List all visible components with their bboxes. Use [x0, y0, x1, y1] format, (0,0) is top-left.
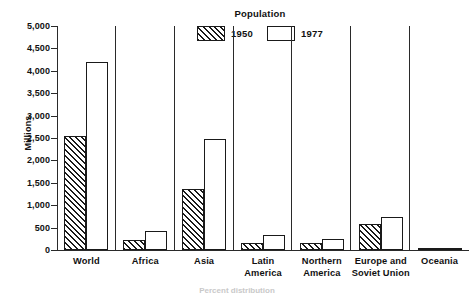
category-label: Latin America [234, 256, 293, 279]
bar-1977 [322, 239, 344, 250]
plot-area [57, 26, 469, 250]
y-tick-label: 5,000 [0, 21, 50, 31]
y-tick-label: 1,500 [0, 178, 50, 188]
y-tick-label: 1,000 [0, 200, 50, 210]
bar-1950 [182, 189, 204, 250]
bar-1977 [381, 217, 403, 250]
bar-group [292, 26, 351, 250]
bar-1977 [440, 248, 462, 250]
bar-1977 [263, 235, 285, 250]
population-bar-chart: Population 1950 1977 Millions 5,0004,500… [0, 0, 474, 297]
bar-1977 [145, 231, 167, 250]
category-label: Africa [116, 256, 175, 268]
bar-group [410, 26, 469, 250]
category-label: Oceania [410, 256, 469, 268]
bar-group [351, 26, 410, 250]
bar-group [57, 26, 116, 250]
category-label: World [57, 256, 116, 268]
bar-group [234, 26, 293, 250]
y-tick-label: 4,000 [0, 66, 50, 76]
category-label: Asia [175, 256, 234, 268]
y-tick-label: 0 [0, 245, 50, 255]
bar-group [116, 26, 175, 250]
y-tick-label: 3,000 [0, 111, 50, 121]
y-tick-label: 4,500 [0, 43, 50, 53]
bar-1950 [418, 248, 440, 250]
bar-1977 [86, 62, 108, 250]
bar-1950 [359, 224, 381, 250]
x-axis-line [57, 250, 469, 251]
category-label: Northern America [292, 256, 351, 279]
bar-1950 [300, 243, 322, 250]
category-label: Europe and Soviet Union [351, 256, 410, 279]
y-tick-label: 500 [0, 223, 50, 233]
y-tick-label: 2,500 [0, 133, 50, 143]
bar-1950 [123, 240, 145, 250]
bar-1950 [241, 243, 263, 250]
y-tick-label: 3,500 [0, 88, 50, 98]
bar-group [175, 26, 234, 250]
footnote-text: Percent distribution [0, 286, 474, 297]
bar-1977 [204, 139, 226, 250]
bar-1950 [64, 136, 86, 250]
y-tick-label: 2,000 [0, 155, 50, 165]
